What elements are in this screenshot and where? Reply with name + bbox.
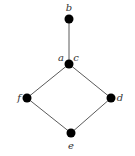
node-f <box>23 94 32 103</box>
label-f: f <box>16 92 23 103</box>
node-ac <box>65 60 74 69</box>
edge-d-e <box>71 98 111 133</box>
label-d: d <box>117 92 123 103</box>
label-e: e <box>68 140 74 151</box>
edge-f-e <box>27 98 71 133</box>
edge-ac-d <box>69 64 111 98</box>
label-a: a <box>58 52 64 63</box>
lattice-diagram: b a c f d e <box>0 0 135 156</box>
label-b: b <box>66 2 72 13</box>
node-d <box>107 94 116 103</box>
node-e <box>67 129 76 138</box>
label-c: c <box>73 52 79 63</box>
edge-ac-f <box>27 64 69 98</box>
node-b <box>65 15 74 24</box>
